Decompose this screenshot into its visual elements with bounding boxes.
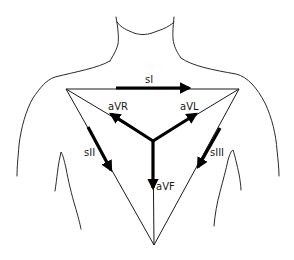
- left-armpit-line: [55, 152, 81, 229]
- collar-line: [117, 22, 174, 35]
- label-lead-iii: sIII: [210, 147, 224, 158]
- torso-outline: [17, 17, 279, 229]
- label-avf: aVF: [156, 181, 175, 192]
- label-avr: aVR: [108, 101, 128, 112]
- label-lead-i: sI: [145, 74, 153, 85]
- avr-arrow: [111, 114, 153, 141]
- neck-left-line: [110, 17, 118, 61]
- right-shoulder-line: [181, 58, 279, 176]
- avl-arrow: [153, 114, 196, 141]
- label-lead-ii: sII: [84, 147, 95, 158]
- diagram-svg: sI sII sIII aVR aVL aVF: [0, 0, 294, 260]
- label-avl: aVL: [180, 101, 199, 112]
- neck-right-line: [173, 17, 181, 58]
- right-armpit-line: [214, 150, 241, 226]
- ecg-lead-diagram: sI sII sIII aVR aVL aVF: [0, 0, 294, 260]
